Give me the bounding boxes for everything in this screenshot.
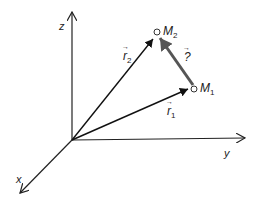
vector-r2 — [72, 39, 153, 140]
point-m2 — [154, 29, 160, 35]
axes: z y x — [15, 12, 245, 193]
label-displacement: → ? — [183, 44, 191, 64]
label-r1: → r1 — [166, 98, 176, 120]
y-axis-label: y — [223, 147, 231, 159]
x-axis-label: x — [15, 173, 22, 185]
z-axis-label: z — [58, 20, 65, 32]
vector-diagram: z y x M2 M1 → r2 → r1 → ? — [0, 0, 257, 208]
svg-text:?: ? — [184, 50, 191, 64]
point-m1 — [191, 86, 197, 92]
y-axis — [72, 138, 245, 140]
x-axis — [20, 140, 72, 193]
label-m1: M1 — [200, 81, 215, 97]
svg-text:r2: r2 — [123, 49, 132, 65]
label-m2: M2 — [163, 24, 178, 40]
label-r2: → r2 — [122, 43, 132, 65]
svg-text:r1: r1 — [167, 104, 176, 120]
